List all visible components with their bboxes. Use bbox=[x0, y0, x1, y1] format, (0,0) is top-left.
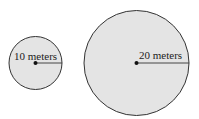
large-circle-group: 20 meters bbox=[84, 11, 189, 116]
large-radius-label: 20 meters bbox=[139, 49, 182, 61]
two-circles-diagram: 10 meters 20 meters bbox=[0, 0, 199, 119]
small-radius-label: 10 meters bbox=[14, 50, 57, 62]
large-center-dot bbox=[135, 61, 139, 65]
small-circle-group: 10 meters bbox=[9, 37, 62, 90]
